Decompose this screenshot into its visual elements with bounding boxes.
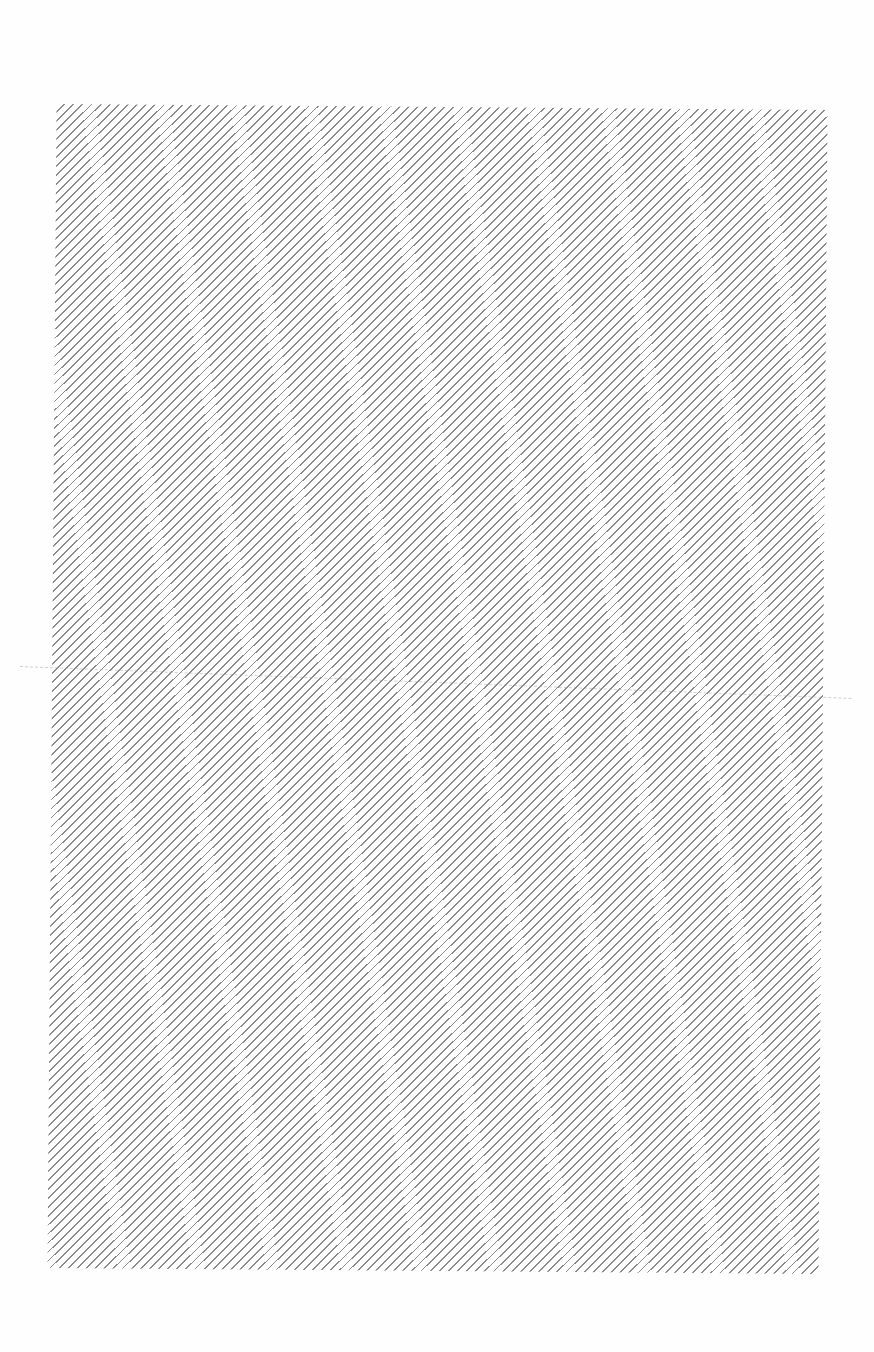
- scanned-page: [0, 0, 874, 1352]
- hatched-panel: [47, 104, 827, 1274]
